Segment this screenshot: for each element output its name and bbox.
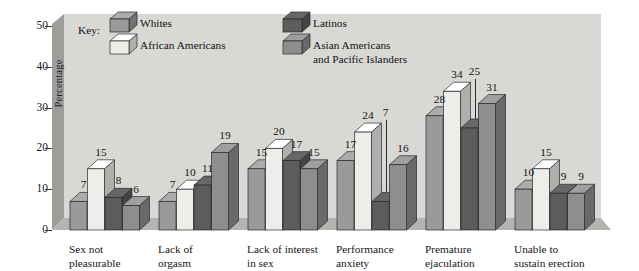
bar-value-label: 6 — [123, 184, 149, 195]
bar-value-label: 7 — [71, 179, 97, 190]
bar — [479, 95, 506, 230]
y-tick-mark — [45, 67, 52, 68]
bar-value-label: 25 — [462, 66, 488, 77]
y-tick-mark — [45, 189, 52, 190]
y-tick-label: 40 — [6, 61, 48, 73]
x-category-label: Sex not pleasurable — [69, 242, 165, 271]
bar-value-label: 10 — [516, 167, 542, 178]
bar-value-label: 15 — [533, 147, 559, 158]
y-tick-label: 30 — [6, 102, 48, 114]
legend-swatch — [283, 34, 310, 54]
bar-value-label: 16 — [390, 143, 416, 154]
x-category-label: Unable to sustain erection — [514, 242, 610, 271]
x-category-label: Performance anxiety — [336, 242, 432, 271]
x-category-label: Lack of interest in sex — [247, 242, 343, 271]
y-axis-title: Percentage — [53, 24, 64, 144]
legend-title: Key: — [78, 25, 100, 36]
x-category-label: Lack of orgasm — [158, 242, 254, 271]
bar-value-label: 31 — [479, 82, 505, 93]
legend-swatch — [110, 12, 137, 32]
y-tick-mark — [45, 108, 52, 109]
legend-label: Latinos — [313, 16, 347, 30]
bar-chart-figure: Percentage 01020304050 Sex not pleasurab… — [0, 0, 639, 271]
legend-swatch — [110, 34, 137, 54]
bar-value-label: 19 — [212, 130, 238, 141]
bar — [123, 197, 150, 230]
bar-value-label: 15 — [88, 147, 114, 158]
y-tick-label: 20 — [6, 142, 48, 154]
y-tick-label: 0 — [6, 224, 48, 236]
bar-value-label: 17 — [338, 139, 364, 150]
bar — [568, 184, 595, 230]
legend-swatch — [283, 12, 310, 32]
bar-value-label: 15 — [301, 147, 327, 158]
bar-value-label: 7 — [160, 179, 186, 190]
y-tick-mark — [45, 148, 52, 149]
x-category-label: Premature ejaculation — [425, 242, 521, 271]
bar — [390, 156, 417, 230]
legend-label: Asian Americans and Pacific Islanders — [313, 38, 407, 66]
y-tick-label: 50 — [6, 20, 48, 32]
bar-value-label: 11 — [195, 163, 221, 174]
bar-value-label: 15 — [249, 147, 275, 158]
y-axis-ticks: 01020304050 — [0, 0, 48, 271]
legend-label: African Americans — [140, 38, 226, 52]
y-tick-label: 10 — [6, 183, 48, 195]
value-leader-line — [386, 120, 387, 192]
y-tick-mark — [45, 230, 52, 231]
bar-value-label: 7 — [373, 107, 399, 118]
bar-value-label: 20 — [266, 126, 292, 137]
value-leader-line — [475, 79, 476, 119]
y-tick-mark — [45, 26, 52, 27]
bar — [301, 160, 328, 230]
bar-value-label: 9 — [568, 171, 594, 182]
legend-label: Whites — [140, 16, 172, 30]
bar-value-label: 28 — [427, 94, 453, 105]
bar — [212, 143, 239, 230]
